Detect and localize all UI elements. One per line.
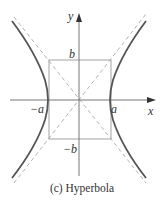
figure-caption: (c) Hyperbola — [50, 182, 114, 195]
asymptote-positive-slope — [14, 14, 146, 183]
x-axis-arrow-icon — [147, 97, 156, 103]
x-axis-label: x — [147, 104, 154, 118]
hyperbola-diagram: y x b −b −a a (c) Hyperbola — [0, 0, 165, 202]
b-positive-label: b — [69, 47, 75, 61]
b-negative-label: −b — [63, 142, 77, 156]
a-positive-label: a — [111, 102, 117, 116]
y-axis-arrow-icon — [76, 13, 82, 22]
y-axis-label: y — [67, 9, 74, 23]
a-negative-label: −a — [30, 102, 44, 116]
